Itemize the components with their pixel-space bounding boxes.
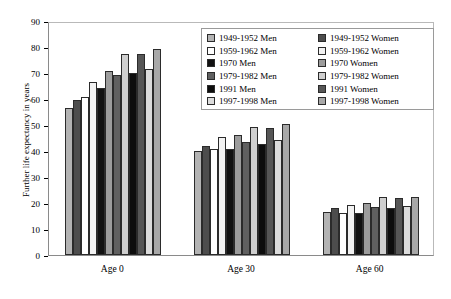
y-axis-label: 80 xyxy=(16,43,40,53)
bar xyxy=(403,206,411,255)
bar-chart: Further life expectancy in years 0102030… xyxy=(0,0,451,299)
bar xyxy=(387,208,395,255)
bar xyxy=(113,75,121,255)
legend-item[interactable]: 1979-1982 Women xyxy=(318,70,429,83)
legend-item-label: 1970 Men xyxy=(219,58,256,68)
x-axis-label: Age 30 xyxy=(181,264,301,274)
bar xyxy=(65,108,73,255)
y-axis-label: 50 xyxy=(16,121,40,131)
y-axis-tick xyxy=(44,48,48,49)
legend-item[interactable]: 1979-1982 Men xyxy=(207,70,318,83)
legend-item[interactable]: 1991 Women xyxy=(318,82,429,95)
y-axis-label: 0 xyxy=(16,251,40,261)
x-axis-label: Age 60 xyxy=(310,264,430,274)
legend-item[interactable]: 1959-1962 Women xyxy=(318,45,429,58)
legend-item-label: 1949-1952 Men xyxy=(219,33,277,43)
y-axis-label: 70 xyxy=(16,69,40,79)
bar xyxy=(339,213,347,255)
legend-item[interactable]: 1970 Women xyxy=(318,57,429,70)
y-axis-tick xyxy=(44,100,48,101)
bar xyxy=(242,142,250,255)
y-axis-label: 90 xyxy=(16,17,40,27)
legend-item-label: 1959-1962 Women xyxy=(330,46,399,56)
bar xyxy=(105,71,113,255)
y-axis-label: 60 xyxy=(16,95,40,105)
y-axis-label: 40 xyxy=(16,147,40,157)
y-axis-tick xyxy=(44,204,48,205)
bar-group xyxy=(65,23,161,255)
y-axis-tick xyxy=(44,22,48,23)
bar xyxy=(371,207,379,255)
bar xyxy=(234,135,242,255)
bar xyxy=(226,149,234,255)
legend-item[interactable]: 1991 Men xyxy=(207,82,318,95)
legend-item-label: 1991 Men xyxy=(219,84,256,94)
x-axis-label: Age 0 xyxy=(52,264,172,274)
bar xyxy=(347,205,355,255)
legend-swatch-icon xyxy=(318,59,326,67)
legend-item-label: 1991 Women xyxy=(330,84,378,94)
bar xyxy=(210,149,218,255)
y-axis-label: 10 xyxy=(16,225,40,235)
legend: 1949-1952 Men1959-1962 Men1970 Men1979-1… xyxy=(201,28,434,110)
legend-item-label: 1959-1962 Men xyxy=(219,46,277,56)
legend-item-label: 1970 Women xyxy=(330,58,378,68)
legend-swatch-icon xyxy=(318,47,326,55)
bar xyxy=(282,124,290,255)
legend-swatch-icon xyxy=(207,97,215,105)
bar xyxy=(355,213,363,255)
legend-item-label: 1997-1998 Men xyxy=(219,96,277,106)
bar xyxy=(395,198,403,255)
bar xyxy=(137,54,145,255)
bar xyxy=(129,73,137,255)
bar xyxy=(274,140,282,255)
bar xyxy=(266,128,274,255)
bar xyxy=(411,197,419,256)
bar xyxy=(250,127,258,255)
legend-column: 1949-1952 Women1959-1962 Women1970 Women… xyxy=(318,32,429,108)
legend-item[interactable]: 1970 Men xyxy=(207,57,318,70)
legend-item[interactable]: 1997-1998 Men xyxy=(207,95,318,108)
legend-swatch-icon xyxy=(318,85,326,93)
legend-item[interactable]: 1949-1952 Women xyxy=(318,32,429,45)
bar xyxy=(363,203,371,255)
y-axis-tick xyxy=(44,126,48,127)
y-axis-label: 20 xyxy=(16,199,40,209)
bar xyxy=(73,100,81,255)
legend-item[interactable]: 1997-1998 Women xyxy=(318,95,429,108)
bar xyxy=(89,82,97,255)
bar xyxy=(81,97,89,255)
bar xyxy=(218,137,226,255)
bar xyxy=(258,144,266,255)
legend-swatch-icon xyxy=(318,72,326,80)
legend-swatch-icon xyxy=(207,72,215,80)
y-axis-tick xyxy=(44,178,48,179)
legend-swatch-icon xyxy=(207,59,215,67)
y-axis-tick xyxy=(44,256,48,257)
bar xyxy=(323,212,331,255)
y-axis-tick xyxy=(44,152,48,153)
legend-item-label: 1979-1982 Men xyxy=(219,71,277,81)
legend-swatch-icon xyxy=(207,85,215,93)
legend-item-label: 1979-1982 Women xyxy=(330,71,399,81)
legend-swatch-icon xyxy=(318,97,326,105)
legend-column: 1949-1952 Men1959-1962 Men1970 Men1979-1… xyxy=(207,32,318,108)
bar xyxy=(97,88,105,255)
legend-item-label: 1949-1952 Women xyxy=(330,33,399,43)
bar xyxy=(121,54,129,255)
bar xyxy=(194,151,202,255)
y-axis-tick xyxy=(44,230,48,231)
bar xyxy=(379,197,387,255)
bar xyxy=(202,146,210,255)
legend-swatch-icon xyxy=(207,47,215,55)
bar xyxy=(331,208,339,255)
legend-item-label: 1997-1998 Women xyxy=(330,96,399,106)
legend-item[interactable]: 1949-1952 Men xyxy=(207,32,318,45)
bar xyxy=(145,69,153,255)
legend-item[interactable]: 1959-1962 Men xyxy=(207,45,318,58)
bar xyxy=(153,49,161,255)
y-axis-tick xyxy=(44,74,48,75)
legend-swatch-icon xyxy=(207,34,215,42)
legend-swatch-icon xyxy=(318,34,326,42)
y-axis-label: 30 xyxy=(16,173,40,183)
